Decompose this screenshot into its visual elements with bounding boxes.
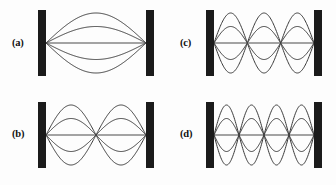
panel-b-label: (b) <box>12 128 24 139</box>
wall-right <box>146 10 154 76</box>
wave-curve <box>46 13 146 43</box>
panel-d-diagram <box>202 100 328 176</box>
panel-c-label: (c) <box>180 37 191 48</box>
panel-c-diagram <box>202 8 328 84</box>
wall-left <box>38 10 46 76</box>
wall-right <box>314 102 322 168</box>
wall-right <box>314 10 322 76</box>
wall-left <box>206 102 214 168</box>
wave-curve <box>46 43 146 73</box>
panel-d-label: (d) <box>180 128 192 139</box>
standing-wave-figure: (a) (b) (c) (d) <box>0 0 336 185</box>
panel-a-label: (a) <box>12 37 24 48</box>
wall-left <box>38 102 46 168</box>
panel-a-diagram <box>34 8 160 84</box>
panel-b-diagram <box>34 100 160 176</box>
wall-right <box>146 102 154 168</box>
wall-left <box>206 10 214 76</box>
